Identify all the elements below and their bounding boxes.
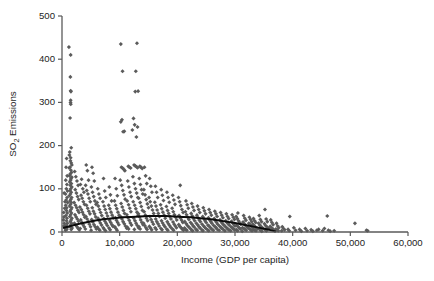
- data-point-marker: [74, 191, 78, 195]
- x-axis-tick-label: 40,000: [278, 237, 307, 248]
- chart-figure: 0100200300400500010,00020,00030,00040,00…: [0, 0, 434, 281]
- data-point-marker: [91, 190, 95, 194]
- data-point-marker: [121, 188, 125, 192]
- data-point-marker: [67, 45, 71, 49]
- data-point-marker: [153, 200, 157, 204]
- data-point-marker: [132, 227, 136, 231]
- data-point-marker: [88, 200, 92, 204]
- data-point-marker: [145, 182, 149, 186]
- data-point-marker: [190, 201, 194, 205]
- scatter-plot-svg: 0100200300400500010,00020,00030,00040,00…: [0, 0, 434, 281]
- data-point-marker: [114, 187, 118, 191]
- data-point-marker: [107, 185, 111, 189]
- data-point-marker: [160, 193, 164, 197]
- data-point-marker: [108, 207, 112, 211]
- data-point-marker: [119, 42, 123, 46]
- data-point-marker: [81, 187, 85, 191]
- data-point-marker: [154, 204, 158, 208]
- data-point-marker: [153, 184, 157, 188]
- data-point-marker: [91, 171, 95, 175]
- data-point-marker: [107, 203, 111, 207]
- data-point-marker: [263, 207, 267, 211]
- data-point-marker: [135, 191, 139, 195]
- data-point-marker: [127, 185, 131, 189]
- data-point-marker: [325, 214, 329, 218]
- data-point-marker: [155, 190, 159, 194]
- data-point-marker: [195, 204, 199, 208]
- data-point-marker: [172, 198, 176, 202]
- x-axis-tick-label: 60,000: [393, 237, 422, 248]
- data-point-marker: [84, 163, 88, 167]
- data-point-marker: [144, 198, 148, 202]
- y-axis-tick-label: 200: [39, 139, 55, 150]
- data-point-marker: [178, 200, 182, 204]
- x-axis-tick-label: 10,000: [105, 237, 134, 248]
- y-axis-tick-label: 500: [39, 10, 55, 21]
- data-point-marker: [142, 188, 146, 192]
- data-point-marker: [122, 193, 126, 197]
- data-point-marker: [165, 190, 169, 194]
- data-point-marker: [85, 169, 89, 173]
- data-point-marker: [155, 208, 159, 212]
- data-point-marker: [170, 206, 174, 210]
- data-point-marker: [103, 207, 107, 211]
- data-point-marker: [97, 192, 101, 196]
- data-point-marker: [89, 185, 93, 189]
- data-point-marker: [136, 89, 140, 93]
- data-point-marker: [159, 203, 163, 207]
- data-point-marker: [139, 204, 143, 208]
- data-point-marker: [86, 178, 90, 182]
- data-point-marker: [65, 182, 69, 186]
- data-point-marker: [64, 178, 68, 182]
- data-point-marker: [130, 128, 134, 132]
- data-point-marker: [115, 194, 119, 198]
- data-point-marker: [119, 201, 123, 205]
- data-point-marker: [96, 187, 100, 191]
- data-point-marker: [176, 195, 180, 199]
- y-axis-tick-label: 100: [39, 182, 55, 193]
- data-point-marker: [186, 206, 190, 210]
- data-point-marker: [129, 195, 133, 199]
- data-point-marker: [104, 195, 108, 199]
- data-point-marker: [144, 174, 148, 178]
- x-axis-tick-label: 20,000: [163, 237, 192, 248]
- data-point-marker: [161, 198, 165, 202]
- data-point-marker: [150, 190, 154, 194]
- data-point-marker: [92, 179, 96, 183]
- y-axis-title: SO2 Emissions: [7, 91, 21, 157]
- data-point-marker: [134, 207, 138, 211]
- data-point-marker: [137, 176, 141, 180]
- data-point-marker: [64, 165, 68, 169]
- data-point-marker: [75, 179, 79, 183]
- data-point-marker: [149, 184, 153, 188]
- data-point-marker: [127, 203, 131, 207]
- data-point-marker: [92, 195, 96, 199]
- data-point-marker: [150, 208, 154, 212]
- data-point-marker: [126, 179, 130, 183]
- data-point-marker: [69, 146, 73, 150]
- data-point-marker: [98, 196, 102, 200]
- data-point-marker: [129, 210, 133, 214]
- data-point-marker: [68, 116, 72, 120]
- data-point-marker: [135, 125, 139, 129]
- data-point-marker: [131, 116, 135, 120]
- x-axis-tick-label: 50,000: [336, 237, 365, 248]
- data-point-marker: [121, 69, 125, 73]
- data-point-marker: [108, 193, 112, 197]
- data-point-marker: [132, 182, 136, 186]
- data-point-marker: [156, 195, 160, 199]
- y-axis-tick-label: 0: [50, 226, 55, 237]
- data-point-marker: [68, 75, 72, 79]
- data-point-marker: [191, 205, 195, 209]
- data-point-marker: [288, 214, 292, 218]
- data-point-marker: [148, 176, 152, 180]
- data-point-marker: [185, 203, 189, 207]
- data-point-marker: [138, 201, 142, 205]
- data-point-marker: [133, 123, 137, 127]
- data-point-marker: [90, 206, 94, 210]
- data-point-marker: [145, 202, 149, 206]
- data-point-marker: [133, 187, 137, 191]
- data-point-marker: [128, 190, 132, 194]
- data-point-marker: [257, 214, 261, 218]
- data-point-marker: [101, 176, 105, 180]
